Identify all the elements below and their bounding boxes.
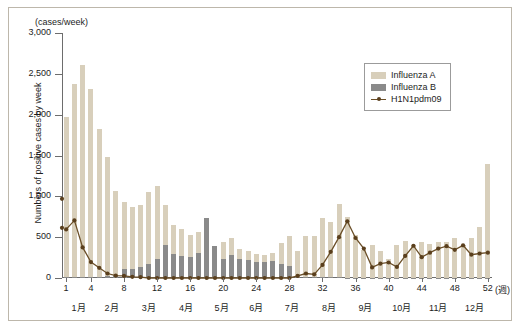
h1n1pdm09-data-marker [205, 276, 209, 280]
x-tick-label: 36 [351, 283, 361, 293]
legend-label: H1N1pdm09 [391, 94, 442, 104]
x-tick-label: 24 [251, 283, 261, 293]
h1n1pdm09-data-marker [304, 271, 308, 275]
month-label: 3月 [142, 301, 156, 314]
h1n1pdm09-data-marker [229, 276, 233, 280]
month-label: 4月 [179, 301, 193, 314]
h1n1pdm09-data-marker [97, 266, 101, 270]
h1n1pdm09-data-marker [411, 244, 415, 248]
x-tick [124, 278, 125, 282]
h1n1pdm09-data-marker [213, 276, 217, 280]
h1n1pdm09-data-marker [353, 236, 357, 240]
x-tick-label: 16 [185, 283, 195, 293]
h1n1pdm09-data-marker [329, 250, 333, 254]
y-tick: 2,500 [55, 74, 62, 75]
h1n1pdm09-data-marker [279, 276, 283, 280]
h1n1pdm09-data-marker [378, 262, 382, 266]
h1n1pdm09-data-marker [486, 251, 490, 255]
h1n1pdm09-data-marker [60, 226, 64, 230]
y-tick: 500 [55, 237, 62, 238]
h1n1pdm09-data-marker [320, 263, 324, 267]
y-axis-unit-caption: (cases/week) [35, 17, 88, 27]
h1n1pdm09-data-marker [147, 276, 151, 280]
x-tick-label: 1 [64, 283, 69, 293]
y-tick-label: 3,000 [28, 27, 51, 37]
x-tick [289, 278, 290, 282]
y-tick: 2,000 [55, 115, 62, 116]
month-label: 10月 [392, 301, 411, 314]
h1n1pdm09-data-marker [64, 227, 68, 231]
y-tick-label: 2,500 [28, 68, 51, 78]
h1n1pdm09-data-marker [263, 276, 267, 280]
month-label: 5月 [215, 301, 229, 314]
h1n1pdm09-data-marker [163, 276, 167, 280]
x-tick-label: 28 [284, 283, 294, 293]
x-tick-label: 12 [152, 283, 162, 293]
y-tick: 3,000 [55, 33, 62, 34]
chart-figure: (cases/week) Numbers of positive cases b… [0, 0, 522, 334]
h1n1pdm09-data-marker [387, 260, 391, 264]
x-tick [455, 278, 456, 282]
h1n1pdm09-data-marker [403, 254, 407, 258]
h1n1pdm09-data-marker [312, 272, 316, 276]
month-label: 8月 [322, 301, 336, 314]
x-tick-label: 20 [218, 283, 228, 293]
x-axis-unit-label: (週) [495, 283, 510, 296]
h1n1pdm09-data-marker [130, 275, 134, 279]
h1n1pdm09-data-marker [72, 218, 76, 222]
h1n1pdm09-data-marker [172, 276, 176, 280]
h1n1pdm09-data-marker [114, 273, 118, 277]
month-label: 9月 [358, 301, 372, 314]
x-tick [66, 278, 67, 282]
x-tick [157, 278, 158, 282]
x-tick-label: 52 [483, 283, 493, 293]
legend-item: H1N1pdm09 [371, 93, 442, 105]
x-tick-label: 40 [384, 283, 394, 293]
h1n1pdm09-data-marker [345, 219, 349, 223]
h1n1pdm09-data-marker [469, 253, 473, 257]
y-tick-label: 1,500 [28, 150, 51, 160]
h1n1pdm09-data-marker [81, 245, 85, 249]
h1n1pdm09-data-marker [436, 247, 440, 251]
h1n1pdm09-data-marker [89, 260, 93, 264]
h1n1pdm09-data-marker [362, 247, 366, 251]
y-tick-label: 1,000 [28, 190, 51, 200]
x-tick-label: 44 [417, 283, 427, 293]
h1n1pdm09-data-marker [196, 276, 200, 280]
x-tick [91, 278, 92, 282]
x-tick-label: 48 [450, 283, 460, 293]
legend-item: Influenza B [371, 81, 442, 93]
month-label: 12月 [465, 301, 484, 314]
legend-label: Influenza A [391, 70, 436, 80]
x-tick [322, 278, 323, 282]
h1n1pdm09-data-marker [246, 276, 250, 280]
legend-item: Influenza A [371, 69, 442, 81]
month-label: 2月 [105, 301, 119, 314]
h1n1pdm09-data-marker [337, 235, 341, 239]
h1n1pdm09-data-marker [271, 276, 275, 280]
y-tick: 0 [55, 278, 62, 279]
x-tick [488, 278, 489, 282]
h1n1pdm09-data-marker [370, 265, 374, 269]
x-tick-label: 8 [122, 283, 127, 293]
influenza-b-swatch [371, 84, 386, 91]
h1n1pdm09-data-marker [138, 275, 142, 279]
x-tick [356, 278, 357, 282]
h1n1pdm09-data-marker [180, 276, 184, 280]
month-label: 11月 [429, 301, 447, 314]
h1n1pdm09-line-path [66, 220, 488, 278]
h1n1pdm09-data-marker [478, 251, 482, 255]
chart-legend: Influenza AInfluenza BH1N1pdm09 [364, 63, 451, 111]
h1n1pdm09-data-marker [296, 274, 300, 278]
influenza-a-swatch [371, 72, 386, 79]
h1n1pdm09-data-marker [105, 271, 109, 275]
y-tick-label: 0 [46, 272, 51, 282]
x-tick-label: 32 [317, 283, 327, 293]
y-tick-label: 2,000 [28, 109, 51, 119]
h1n1pdm09-data-marker [428, 251, 432, 255]
x-tick-label: 4 [88, 283, 93, 293]
x-tick [190, 278, 191, 282]
x-tick [422, 278, 423, 282]
legend-label: Influenza B [391, 82, 436, 92]
h1n1pdm09-line-swatch [371, 96, 386, 103]
